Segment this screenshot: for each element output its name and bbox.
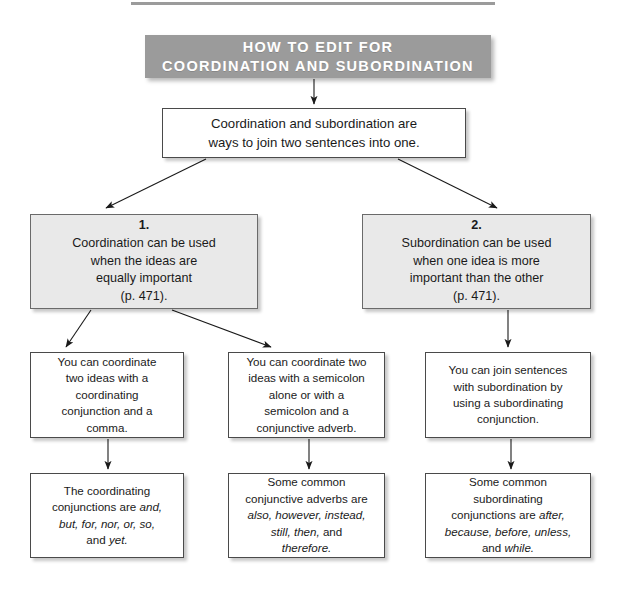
intro-box: Coordination and subordination are ways … <box>162 108 466 158</box>
branch-1-number: 1. <box>31 217 257 235</box>
branch-box-subordination: 2.Subordination can be used when one ide… <box>362 214 591 309</box>
detail-box-subordination: You can join sentences with subordinatio… <box>425 352 591 438</box>
branch-1-text: Coordination can be used when the ideas … <box>72 236 216 304</box>
chart-title-text: HOW TO EDIT FOR COORDINATION AND SUBORDI… <box>145 38 491 74</box>
example-1-tail: and <box>86 533 109 546</box>
example-3-text: Some common subordinating conjunctions a… <box>426 474 590 556</box>
example-2-italics: also, however, instead, still, then, <box>248 508 366 537</box>
example-3-italics-tail: while. <box>504 541 534 554</box>
branch-2-number: 2. <box>363 217 590 235</box>
arrow-intro-to-branch-1 <box>106 159 206 208</box>
branch-2-body: 2.Subordination can be used when one ide… <box>363 217 590 306</box>
detail-box-coordinating-conjunction: You can coordinate two ideas with a coor… <box>30 352 184 438</box>
example-3-lead: Some common subordinating conjunctions a… <box>451 475 547 521</box>
example-2-lead: Some common conjunctive adverbs are <box>245 475 367 504</box>
example-1-italics-tail: yet. <box>109 533 128 546</box>
top-horizontal-rule <box>131 2 495 5</box>
example-box-subordinating-conjunctions: Some common subordinating conjunctions a… <box>425 473 591 558</box>
chart-title-banner: HOW TO EDIT FOR COORDINATION AND SUBORDI… <box>145 35 491 78</box>
example-3-tail: and <box>482 541 505 554</box>
example-1-text: The coordinating conjunctions are and, b… <box>31 483 183 549</box>
detail-box-semicolon: You can coordinate two ideas with a semi… <box>228 352 385 438</box>
example-1-lead: The coordinating conjunctions are <box>52 484 150 513</box>
branch-1-body: 1.Coordination can be used when the idea… <box>31 217 257 306</box>
detail-2-text: You can coordinate two ideas with a semi… <box>229 354 384 436</box>
arrow-branch1-to-detail-1 <box>66 310 91 347</box>
branch-box-coordination: 1.Coordination can be used when the idea… <box>30 214 258 309</box>
arrow-intro-to-branch-2 <box>398 159 497 208</box>
branch-2-text: Subordination can be used when one idea … <box>402 236 552 304</box>
example-box-coordinating-conjunctions: The coordinating conjunctions are and, b… <box>30 473 184 558</box>
intro-text: Coordination and subordination are ways … <box>163 114 465 152</box>
example-box-conjunctive-adverbs: Some common conjunctive adverbs are also… <box>228 473 385 558</box>
detail-3-text: You can join sentences with subordinatio… <box>426 362 590 428</box>
example-2-tail: and <box>320 525 343 538</box>
arrow-branch1-to-detail-2 <box>172 310 271 347</box>
example-2-italics-tail: therefore. <box>282 541 332 554</box>
detail-1-text: You can coordinate two ideas with a coor… <box>31 354 183 436</box>
example-2-text: Some common conjunctive adverbs are also… <box>229 474 384 556</box>
flowchart-canvas: HOW TO EDIT FOR COORDINATION AND SUBORDI… <box>0 0 626 600</box>
